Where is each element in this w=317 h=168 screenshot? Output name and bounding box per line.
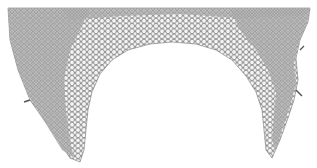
cell-arch-illustration [0, 0, 317, 168]
protrusion-left [24, 100, 30, 102]
protrusion-right [296, 90, 302, 96]
arch-drawing [0, 0, 317, 168]
protrusion-top-right [300, 46, 304, 50]
